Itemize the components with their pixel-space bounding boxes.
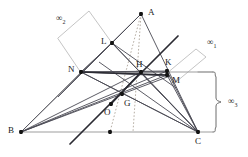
segment-B-K <box>21 71 167 132</box>
point-label-H: H <box>136 60 143 69</box>
infinity-2-subscript: 2 <box>62 19 65 25</box>
point-marker-G <box>120 92 124 96</box>
point-marker-C <box>196 130 200 134</box>
infinity-1-subscript: 1 <box>213 43 216 49</box>
infinity-2-label: ∞2 <box>56 14 65 25</box>
segment-B-H <box>21 72 141 132</box>
point-label-M: M <box>172 76 180 85</box>
infinity-3-label: ∞3 <box>228 97 237 108</box>
point-marker-A <box>139 12 143 16</box>
point-label-L: L <box>101 37 107 46</box>
segment-M-B-low <box>21 75 167 132</box>
point-label-A: A <box>148 8 155 17</box>
point-label-G: G <box>124 99 131 108</box>
point-label-B: B <box>8 126 14 135</box>
point-label-N: N <box>68 65 75 74</box>
point-marker-N <box>79 70 83 74</box>
infinity-3-subscript: 3 <box>234 102 237 108</box>
segment-H-C-lower <box>141 72 198 132</box>
brace-infinity-3 <box>198 72 221 132</box>
infinity-1-label: ∞1 <box>207 38 216 49</box>
figure-svg <box>0 0 248 157</box>
point-marker-O <box>109 102 113 106</box>
brace-path <box>213 72 221 132</box>
point-marker-L <box>110 41 114 45</box>
point-marker-Pbc <box>108 130 112 134</box>
point-label-O: O <box>104 108 111 117</box>
point-marker-H <box>139 70 143 74</box>
gray-baseline-layer <box>21 72 213 132</box>
point-label-K: K <box>165 58 172 67</box>
geometry-figure-canvas: ABCLNHKMGO ∞2∞1∞3 <box>0 0 248 157</box>
heavy-line-layer <box>70 36 178 144</box>
point-marker-B <box>19 130 23 134</box>
point-marker-M <box>165 73 169 77</box>
point-label-C: C <box>195 137 201 146</box>
point-marker-K <box>165 69 169 73</box>
